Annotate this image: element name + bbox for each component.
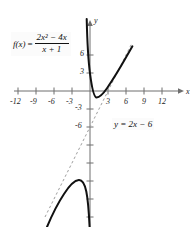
x-tick-label--12: -12 (10, 98, 21, 106)
x-tick-label--9: -9 (30, 98, 37, 106)
x-tick-label--6: -6 (48, 98, 55, 106)
x-axis (14, 88, 184, 95)
x-tick-label-9: 9 (142, 98, 146, 106)
fraction-denominator: x + 1 (40, 45, 63, 54)
fraction-numerator: 2x² − 4x (35, 33, 69, 42)
function-curve-left-branch (47, 180, 90, 227)
y-tick-label-6: 6 (80, 50, 84, 58)
equals-sign: = (28, 39, 33, 49)
y-tick-label-3: 3 (80, 68, 84, 76)
asymptote-equation-label: y = 2x − 6 (112, 118, 154, 130)
y-tick-label--3: -3 (75, 104, 82, 112)
x-axis-name: x (185, 87, 190, 96)
x-tick-label--3: -3 (66, 98, 73, 106)
function-curve-right-branch (87, 19, 133, 97)
x-tick-label-12: 12 (158, 98, 166, 106)
function-graph-figure: y x -12 -9 -6 -3 3 6 9 12 6 3 -3 -6 f(x)… (0, 0, 192, 227)
function-equation-label: f(x) = 2x² − 4x x + 1 (11, 32, 71, 56)
x-tick-label-3: 3 (106, 98, 110, 106)
function-name: f(x) (13, 39, 26, 49)
y-axis-name: y (93, 16, 98, 25)
x-tick-label-6: 6 (124, 98, 128, 106)
y-tick-label--6: -6 (75, 122, 82, 130)
fraction: 2x² − 4x x + 1 (35, 33, 69, 55)
